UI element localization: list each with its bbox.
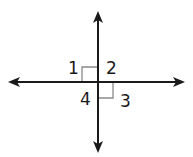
angle-label-2: 2 <box>106 58 117 78</box>
right-angle-marker-upper-left <box>82 67 98 82</box>
right-angle-marker-lower-right <box>98 82 113 98</box>
angle-label-3: 3 <box>120 91 131 111</box>
angle-label-1: 1 <box>68 58 79 78</box>
perpendicular-lines-diagram: 1 2 3 4 <box>0 0 193 157</box>
diagram-canvas: 1 2 3 4 <box>0 0 193 157</box>
angle-label-4: 4 <box>80 89 91 109</box>
